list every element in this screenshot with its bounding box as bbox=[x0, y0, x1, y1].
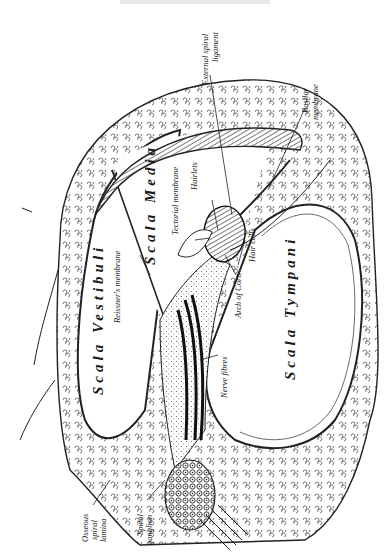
label-scala-vestibuli: Scala Vestibuli bbox=[90, 244, 107, 395]
label-hairlets: Hairlets bbox=[190, 162, 199, 190]
label-basilar-membrane-2: membrane bbox=[311, 84, 320, 120]
label-scala-tympani: Scala Tympani bbox=[282, 236, 299, 380]
label-tectorial-membrane: Tectorial membrane bbox=[171, 167, 180, 235]
label-basilar-membrane-1: Basilar bbox=[301, 88, 310, 113]
label-scala-media: Scala Media bbox=[142, 144, 159, 265]
label-nerve-fibres: Nerve fibres bbox=[220, 357, 229, 398]
label-osseous-3: lamina bbox=[99, 518, 108, 542]
label-external-spiral-ligament-2: ligament bbox=[211, 32, 220, 62]
spiral-ganglion bbox=[165, 460, 215, 530]
label-hair-cells: Hair cells bbox=[248, 228, 257, 262]
label-spiral-ganglion-2: ganglion bbox=[145, 515, 154, 545]
label-arch-of-corti: Arch of Corti bbox=[234, 273, 243, 318]
label-external-spiral-ligament-1: External spiral bbox=[201, 34, 210, 85]
label-reissners-membrane: Reissner's membrane bbox=[113, 251, 122, 323]
cochlea-cross-section-illustration bbox=[0, 0, 385, 560]
